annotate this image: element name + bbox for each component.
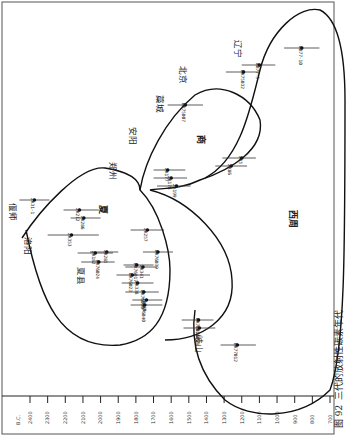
sample-id-label: WB77-10 xyxy=(298,46,303,65)
axis-tick-label: 1200 xyxy=(239,411,245,424)
place-label-xiaxian: 夏县 xyxy=(76,267,86,285)
sample-id-label: ZK212 xyxy=(75,208,80,222)
sample-date-range: WB77-10 xyxy=(284,46,319,65)
sample-id-label: BK76040 xyxy=(141,303,146,322)
sample-date-range: ZK286 xyxy=(71,216,101,230)
sample-date-range: ZK178 xyxy=(154,176,188,190)
sample-id-label: ZK341 xyxy=(139,265,144,279)
axis-tick-label: 2200 xyxy=(62,411,68,424)
axis-tick-label: 800 xyxy=(309,414,315,424)
place-label-beijing: 北京 xyxy=(178,66,188,84)
sample-id-label: ZK86 xyxy=(227,164,232,175)
axis-tick-label: 900 xyxy=(292,414,298,424)
axis-tick-label: 2300 xyxy=(44,411,50,424)
sample-id-label: ZK338 xyxy=(134,281,139,295)
sample-id-label: ZK178 xyxy=(167,176,172,190)
sample-date-range: ZK257 xyxy=(131,228,165,242)
place-label-yanshi: 偃师 xyxy=(8,203,18,221)
axis-tick-label: 2000 xyxy=(97,411,103,424)
sample-id-label: ZK353 xyxy=(67,233,72,247)
sample-id-label: BK76024 xyxy=(95,260,100,279)
sample-id-label: BK76039 xyxy=(154,250,159,269)
place-label-qishan: 岐山 xyxy=(194,335,204,353)
sample-id-label: ZK31-1 xyxy=(30,198,35,215)
place-label-liaoning: 辽宁 xyxy=(233,40,243,58)
period-label-shang: 商 xyxy=(196,135,207,144)
sample-date-range: ZK338 xyxy=(122,281,154,295)
sample-id-label: ZK286 xyxy=(80,216,85,230)
axis-tick-label: 1600 xyxy=(168,411,174,424)
sample-date-range: ZK199 xyxy=(157,184,191,198)
sample-id-label: ZK199 xyxy=(172,184,177,198)
axis-tick-label: 1300 xyxy=(221,411,227,424)
axis-tick-label: 700 xyxy=(327,414,333,424)
axis-tick-label: 1500 xyxy=(186,411,192,424)
sample-id-label: BK75032 xyxy=(240,70,245,89)
axis-tick-label: 1400 xyxy=(203,411,209,424)
sample-id-label: ZK257 xyxy=(143,228,148,242)
sample-series: ZK31-1ZK212ZK286ZK285ZK353ZK182BK76024ZK… xyxy=(19,46,319,362)
sample-id-label: BK77012 xyxy=(233,343,238,362)
sample-date-range: BK77012 xyxy=(221,343,256,362)
place-label-zhengzhou: 郑州 xyxy=(108,162,118,180)
sample-id-label: BK75007 xyxy=(181,103,186,122)
figure-caption: 三代的放射性碳素年代 xyxy=(333,310,344,400)
axis-tick-label: 2100 xyxy=(80,411,86,424)
sample-date-range: WB77-5 xyxy=(242,63,276,80)
sample-date-range: BK75032 xyxy=(226,70,260,89)
axis-unit-label: B.C. xyxy=(15,414,21,425)
place-label-luoyang: 洛阳 xyxy=(23,237,33,255)
sample-date-range: ZK31-1 xyxy=(19,198,49,215)
sample-id-label: WB77-5 xyxy=(255,63,260,80)
axis-ticks: 2400230022002100200019001800170016001500… xyxy=(27,396,333,424)
sample-date-range: BK76040 xyxy=(131,303,163,322)
sample-date-range: BK76017 xyxy=(124,263,154,282)
sample-date-range: BK75007 xyxy=(168,103,203,122)
chart-frame xyxy=(2,2,334,434)
axis-tick-label: 1800 xyxy=(133,411,139,424)
place-label-gaocheng: 藁城 xyxy=(155,95,165,113)
sample-id-label: ZK5 xyxy=(238,156,243,164)
axis-tick-label: 2400 xyxy=(27,411,33,424)
radiocarbon-chart: 2400230022002100200019001800170016001500… xyxy=(0,0,358,438)
figure-number: 图 92 xyxy=(334,405,344,428)
axis-tick-label: 1700 xyxy=(150,411,156,424)
sample-date-range: ZK353 xyxy=(48,233,99,247)
axis-tick-label: 1900 xyxy=(115,411,121,424)
period-label-zhou: 西周 xyxy=(288,210,298,228)
sample-date-range: ZK86 xyxy=(215,164,247,175)
place-label-anyang: 安阳 xyxy=(128,127,138,145)
zhou-region-outline xyxy=(194,9,345,414)
shang-region-outline xyxy=(140,89,260,340)
period-label-xia: 夏 xyxy=(98,204,108,215)
